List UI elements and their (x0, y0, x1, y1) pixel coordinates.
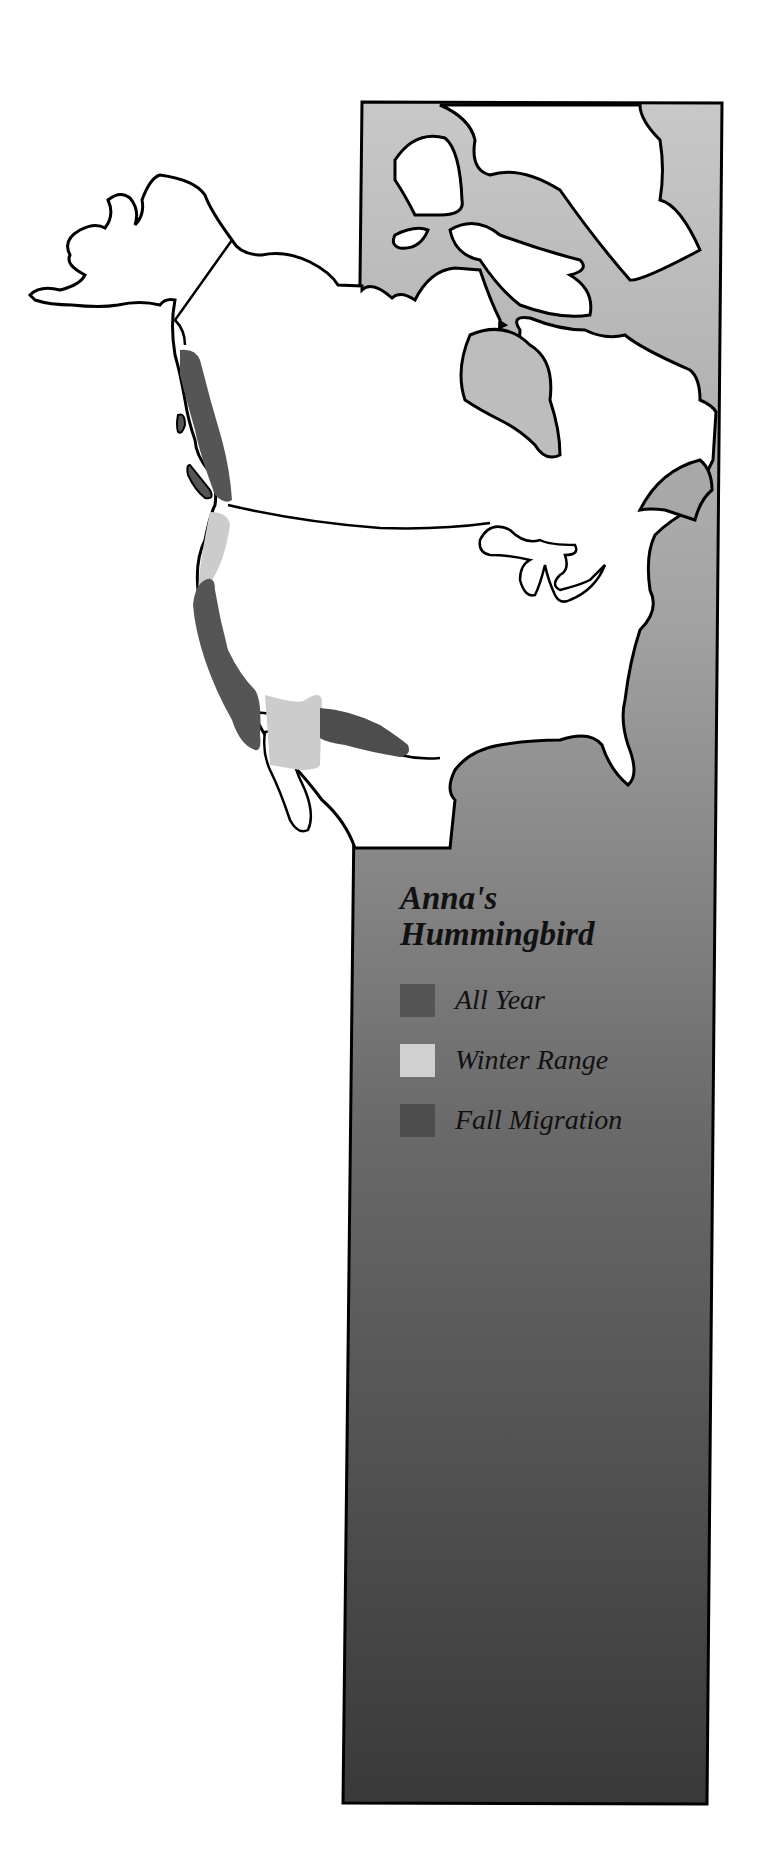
species-name-line2: Hummingbird (400, 916, 700, 952)
legend-label: Winter Range (455, 1044, 608, 1076)
winter-range-area-south (265, 695, 322, 770)
species-name-line1: Anna's (400, 880, 700, 916)
winter-range-swatch-icon (400, 1044, 435, 1077)
haida-gwaii (177, 414, 185, 432)
range-map: Anna's Hummingbird All Year Winter Range… (0, 0, 760, 1864)
legend-title: Anna's Hummingbird (400, 880, 700, 952)
legend-label: Fall Migration (455, 1104, 622, 1136)
fall-migration-swatch-icon (400, 1104, 435, 1137)
legend-label: All Year (455, 984, 545, 1016)
legend-item-fall-migration: Fall Migration (400, 1090, 700, 1150)
legend-item-all-year: All Year (400, 970, 700, 1030)
legend-item-winter-range: Winter Range (400, 1030, 700, 1090)
map-legend: Anna's Hummingbird All Year Winter Range… (400, 880, 700, 1150)
all-year-swatch-icon (400, 984, 435, 1017)
